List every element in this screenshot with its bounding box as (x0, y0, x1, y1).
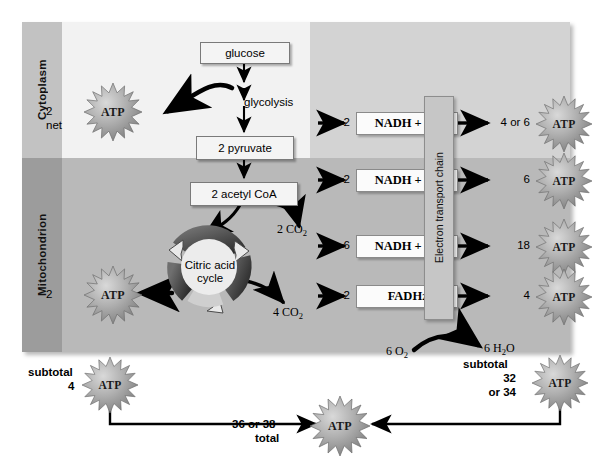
count-nadh-citric-acid-cycle: 6 (338, 239, 350, 251)
box-acetyl-coa: 2 acetyl CoA (190, 182, 298, 206)
grand-total-value: 36 or 38 (232, 418, 275, 430)
atp-star-subtotal-right-label: ATP (532, 355, 588, 411)
label-co2-pyruvate-oxidation: 2 CO2 (277, 222, 307, 238)
label-glycolysis: glycolysis (244, 96, 293, 108)
atp-star-subtotal-left-label: ATP (82, 357, 138, 413)
atp-star-etc-3: ATP (536, 219, 592, 275)
respiration-diagram: Cytoplasm Mitochondrion (0, 0, 608, 465)
atp-star-glycolysis-label: ATP (84, 83, 142, 141)
formula-co2-pyruvate-oxidation-sub: 2 (303, 228, 307, 238)
subtotal-left-value: 4 (68, 380, 74, 392)
qty-atp-citric-acid-cycle: 2 (46, 288, 68, 300)
count-co2-citric-acid-cycle: 4 (273, 305, 279, 319)
compartment-label-cytoplasm: Cytoplasm (22, 22, 62, 158)
atp-star-citric-acid-cycle: ATP (84, 266, 142, 324)
label-electron-transport-chain: Electron transport chain (425, 97, 453, 319)
atp-star-etc-2: ATP (536, 153, 592, 209)
grand-total-word: total (255, 432, 279, 444)
count-oxygen: 6 (386, 344, 392, 358)
atp-star-etc-4: ATP (536, 269, 592, 325)
formula-co2-pyruvate-oxidation: CO (286, 222, 303, 236)
box-pyruvate: 2 pyruvate (196, 136, 294, 160)
electron-transport-chain-bar: Electron transport chain (424, 96, 454, 320)
subtotal-right-value: 32 (463, 372, 516, 384)
subtotal-right-value-alt: or 34 (463, 386, 516, 398)
qty-atp-etc-3: 18 (486, 239, 530, 251)
atp-star-glycolysis: ATP (84, 83, 142, 141)
qty-atp-etc-4: 4 (486, 289, 530, 301)
count-fadh2-citric-acid-cycle: 2 (338, 289, 350, 301)
label-citric-acid-cycle-line1: Citric acid (182, 259, 238, 271)
count-nadh-glycolysis: 2 (338, 116, 350, 128)
qty-atp-etc-2: 6 (486, 173, 530, 185)
count-co2-pyruvate-oxidation: 2 (277, 222, 283, 236)
atp-star-etc-3-label: ATP (536, 219, 592, 275)
atp-star-subtotal-right: ATP (532, 355, 588, 411)
subtotal-right-word: subtotal (463, 358, 508, 370)
label-water: 6 H2O (484, 341, 515, 357)
atp-star-etc-1: ATP (536, 96, 592, 152)
count-water: 6 (484, 341, 490, 355)
subtotal-left-word: subtotal (28, 366, 73, 378)
formula-water-h: H (493, 341, 502, 355)
atp-star-grand-total: ATP (310, 396, 370, 456)
label-citric-acid-cycle-line2: cycle (182, 272, 238, 284)
qty-atp-glycolysis-line2: net (46, 119, 74, 131)
formula-co2-citric-acid-cycle: CO (282, 305, 299, 319)
count-nadh-pyruvate-oxidation: 2 (338, 173, 350, 185)
formula-co2-citric-acid-cycle-sub: 2 (299, 311, 303, 321)
atp-star-citric-acid-cycle-label: ATP (84, 266, 142, 324)
compartment-label-mitochondrion: Mitochondrion (22, 158, 62, 352)
label-oxygen: 6 O2 (386, 344, 408, 360)
qty-atp-etc-1: 4 or 6 (486, 116, 530, 128)
atp-star-grand-total-label: ATP (310, 396, 370, 456)
box-glucose: glucose (200, 42, 290, 64)
atp-star-subtotal-left: ATP (82, 357, 138, 413)
formula-oxygen: O (395, 344, 404, 358)
atp-star-etc-4-label: ATP (536, 269, 592, 325)
atp-star-etc-2-label: ATP (536, 153, 592, 209)
label-co2-citric-acid-cycle: 4 CO2 (273, 305, 303, 321)
formula-fadh2: FADH (388, 289, 423, 304)
formula-water-o: O (506, 341, 515, 355)
formula-oxygen-sub: 2 (404, 350, 408, 360)
atp-star-etc-1-label: ATP (536, 96, 592, 152)
qty-atp-glycolysis-line1: 2 (46, 105, 68, 117)
